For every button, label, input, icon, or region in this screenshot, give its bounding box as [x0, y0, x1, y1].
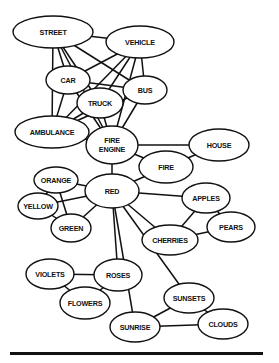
node-violets: VIOLETS: [26, 259, 74, 289]
node-truck: TRUCK: [77, 88, 123, 118]
node-roses: ROSES: [94, 259, 142, 291]
node-flowers: FLOWERS: [60, 287, 110, 319]
node-cherries: CHERRIES: [142, 225, 198, 255]
node-label: TRUCK: [88, 99, 113, 108]
node-house: HOUSE: [189, 129, 249, 161]
node-pears: PEARS: [207, 212, 255, 242]
node-street: STREET: [13, 16, 93, 48]
node-label: RED: [105, 187, 120, 196]
node-car: CAR: [46, 66, 90, 94]
node-label: PEARS: [219, 223, 243, 232]
node-label: SUNRISE: [120, 323, 151, 332]
node-label: ROSES: [106, 271, 131, 280]
node-red: RED: [85, 174, 139, 208]
node-ambulance: AMBULANCE: [15, 116, 89, 148]
node-label: ENGINE: [99, 145, 126, 154]
node-label: VIOLETS: [35, 270, 65, 279]
node-label: HOUSE: [207, 141, 232, 150]
node-label: APPLES: [192, 194, 220, 203]
node-green: GREEN: [51, 214, 91, 242]
node-label: VEHICLE: [125, 38, 155, 47]
node-label: CLOUDS: [208, 320, 238, 329]
node-sunrise: SUNRISE: [110, 312, 160, 342]
node-fire: FIRE: [139, 151, 193, 183]
node-label: FLOWERS: [68, 299, 103, 308]
node-label: STREET: [39, 28, 67, 37]
node-yellow: YELLOW: [18, 193, 58, 219]
semantic-network-diagram: STREETVEHICLECARTRUCKBUSAMBULANCEFIREENG…: [0, 0, 279, 363]
node-label: ORANGE: [41, 176, 72, 185]
node-bus: BUS: [123, 76, 167, 104]
node-label: BUS: [138, 86, 153, 95]
node-label: CHERRIES: [152, 236, 188, 245]
node-orange: ORANGE: [34, 167, 78, 193]
node-clouds: CLOUDS: [198, 309, 248, 339]
node-sunsets: SUNSETS: [164, 283, 214, 313]
node-label: FIRE: [158, 163, 174, 172]
node-label: GREEN: [59, 224, 84, 233]
node-label: SUNSETS: [173, 294, 206, 303]
bottom-rule-divider: [10, 352, 263, 355]
node-fire-engine: FIREENGINE: [86, 126, 138, 164]
node-label: CAR: [61, 76, 77, 85]
node-label: YELLOW: [23, 202, 53, 211]
node-label: AMBULANCE: [30, 128, 75, 137]
node-vehicle: VEHICLE: [106, 26, 174, 58]
node-apples: APPLES: [182, 183, 230, 213]
